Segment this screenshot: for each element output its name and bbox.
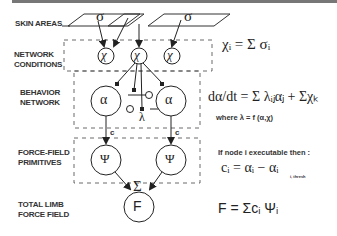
label-network-1: NETWORK (14, 50, 54, 60)
label-behavior: BEHAVIOR (20, 88, 60, 98)
equation-force: F = Σcᵢ Ψᵢ (218, 200, 278, 216)
label-behavior-network: NETWORK (20, 98, 60, 108)
condition-text: If node i executable then : (218, 148, 310, 157)
label-total-limb: TOTAL LIMB (18, 200, 64, 210)
label-force-field: FORCE-FIELD (18, 148, 70, 158)
c-label-1: c (110, 128, 114, 137)
chi-node-2: χ (134, 47, 140, 63)
alpha-node-2: α (165, 92, 172, 108)
psi-node-2: Ψ (165, 151, 175, 167)
chi-node-3: χ (167, 47, 173, 63)
sigma-symbol-1: σ (96, 8, 104, 25)
sigma-symbol-2: σ (184, 8, 192, 25)
equation-alpha: dα/dt = Σ λᵢⱼαⱼ + Σχₖ (208, 88, 319, 105)
diagram: σ σ χ χ χ α α λ c c Ψ Ψ Σ F SKIN AREAS N… (0, 0, 337, 236)
force-node: F (133, 198, 142, 214)
label-skin-areas: SKIN AREAS (15, 19, 62, 29)
equation-chi: χᵢ = Σ σᵢ (222, 36, 270, 53)
label-conditions: CONDITIONS (14, 60, 62, 70)
label-force-field-total: FORCE FIELD (18, 210, 69, 220)
alpha-node-1: α (100, 92, 107, 108)
equation-c-subscript: i, thresh (290, 174, 306, 179)
c-label-2: c (175, 128, 179, 137)
equation-where: where λ = f (α,χ) (216, 113, 273, 122)
skin-areas-planes (68, 14, 230, 26)
sum-symbol: Σ (133, 178, 142, 195)
psi-node-1: Ψ (100, 151, 110, 167)
label-primitives: PRIMITIVES (18, 158, 61, 168)
lambda-label: λ (139, 110, 145, 125)
equation-c: cᵢ = αᵢ − αᵢ (221, 160, 279, 176)
chi-node-1: χ (101, 47, 107, 63)
